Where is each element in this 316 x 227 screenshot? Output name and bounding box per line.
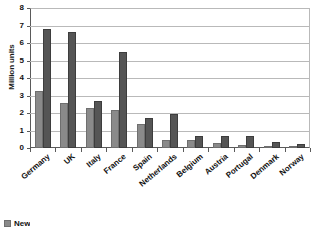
bar-netherlands-used [170, 114, 178, 148]
bar-portugal-used [246, 136, 254, 148]
bar-uk-new [60, 103, 68, 149]
y-axis-tick-label: 7 [2, 21, 24, 30]
bar-group [183, 8, 208, 148]
bar-group [259, 8, 284, 148]
chart-container: Million units 876543210 GermanyUKItalyFr… [0, 0, 316, 227]
bar-group [132, 8, 157, 148]
y-axis-tick-label: 3 [2, 91, 24, 100]
bar-germany-new [35, 91, 43, 148]
bar-group [81, 8, 106, 148]
bar-group [157, 8, 182, 148]
y-axis-tick-label: 4 [2, 73, 24, 82]
bar-belgium-used [195, 136, 203, 148]
y-axis-tick-label: 1 [2, 126, 24, 135]
bar-group [208, 8, 233, 148]
chart-legend: New [4, 219, 30, 227]
bar-series-layer [30, 8, 310, 148]
x-axis-label-layer: GermanyUKItalyFranceSpainNetherlandsBelg… [30, 152, 310, 204]
bar-spain-new [137, 124, 145, 148]
y-axis-tick-label: 5 [2, 56, 24, 65]
bar-group [30, 8, 55, 148]
bar-germany-used [43, 29, 51, 148]
bar-italy-used [94, 101, 102, 148]
bar-netherlands-new [162, 140, 170, 148]
bar-uk-used [68, 32, 76, 148]
y-axis-tick-label: 6 [2, 38, 24, 47]
bar-austria-used [221, 136, 229, 148]
y-axis-tick-label: 8 [2, 3, 24, 12]
bar-group [234, 8, 259, 148]
bar-france-used [119, 52, 127, 148]
x-axis-tick-mark [310, 148, 311, 152]
bar-france-new [111, 110, 119, 148]
bar-group [285, 8, 310, 148]
y-axis-title: Million units [7, 17, 21, 117]
bar-group [106, 8, 131, 148]
y-axis-tick-label: 2 [2, 108, 24, 117]
legend-swatch [4, 220, 11, 227]
bar-italy-new [86, 108, 94, 148]
bar-belgium-new [187, 140, 195, 148]
bar-spain-used [145, 118, 153, 148]
legend-label: New [14, 219, 30, 227]
bar-group [55, 8, 80, 148]
y-axis-tick-label: 0 [2, 143, 24, 152]
